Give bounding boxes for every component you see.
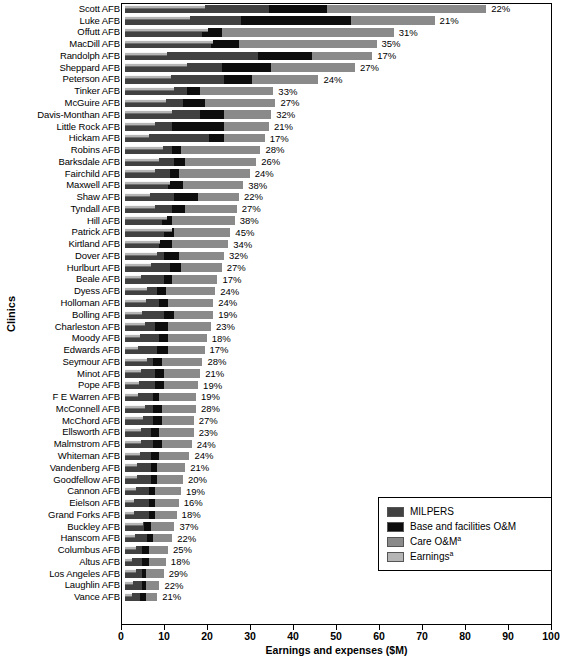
row-label-tyndall-afb: Tyndall AFB <box>20 204 124 214</box>
row-label-scott-afb: Scott AFB <box>20 4 124 14</box>
row-plot: 26% <box>124 156 556 168</box>
row-plot: 19% <box>124 485 556 497</box>
row-plot: 18% <box>124 332 556 344</box>
segment-bfom <box>269 5 327 13</box>
earnings-bar <box>125 346 138 350</box>
x-tick-label: 10 <box>158 630 170 642</box>
row-label-luke-afb: Luke AFB <box>20 16 124 26</box>
row-plot: 22% <box>124 191 556 203</box>
segment-care <box>172 240 228 248</box>
row-bars: 17% <box>125 274 555 286</box>
segment-bfom <box>211 40 239 48</box>
row-plot: 17% <box>124 132 556 144</box>
earnings-bar <box>125 63 187 67</box>
row-percent-label: 24% <box>197 439 216 450</box>
chart-row: McChord AFB27% <box>20 415 558 427</box>
legend-item: MILPERS <box>387 504 545 519</box>
row-bars: 27% <box>125 262 555 274</box>
earnings-bar <box>125 240 160 244</box>
row-label-barksdale-afb: Barksdale AFB <box>20 157 124 167</box>
row-plot: 22% <box>124 3 556 15</box>
row-plot: 21% <box>124 462 556 474</box>
segment-care <box>162 440 192 448</box>
earnings-bar <box>125 193 150 197</box>
chart-row: Seymour AFB28% <box>20 356 558 368</box>
row-label-moody-afb: Moody AFB <box>20 333 124 343</box>
row-percent-label: 38% <box>248 180 267 191</box>
row-label-macdill-afb: MacDill AFB <box>20 39 124 49</box>
row-label-laughlin-afb: Laughlin AFB <box>20 580 124 590</box>
segment-care <box>185 158 256 166</box>
segment-bfom <box>187 87 200 95</box>
y-axis-title: Clinics <box>2 0 20 628</box>
earnings-bar <box>125 440 141 444</box>
row-plot: 27% <box>124 203 556 215</box>
legend-label: Earningsa <box>410 550 453 562</box>
row-plot: 31% <box>124 27 556 39</box>
row-percent-label: 21% <box>190 462 209 473</box>
earnings-bar <box>125 216 167 220</box>
row-plot: 21% <box>124 15 556 27</box>
segment-care <box>162 416 194 424</box>
row-label-grand-forks-afb: Grand Forks AFB <box>20 510 124 520</box>
legend-label-text: Base and facilities O&M <box>410 521 516 532</box>
earnings-bar <box>125 405 145 409</box>
row-plot: 28% <box>124 144 556 156</box>
row-label-pope-afb: Pope AFB <box>20 380 124 390</box>
x-tick-label: 90 <box>502 630 514 642</box>
row-percent-label: 23% <box>199 427 218 438</box>
earnings-bar <box>125 369 141 373</box>
row-percent-label: 17% <box>222 274 241 285</box>
segment-care <box>159 452 189 460</box>
row-label-buckley-afb: Buckley AFB <box>20 522 124 532</box>
row-label-goodfellow-afb: Goodfellow AFB <box>20 475 124 485</box>
row-bars: 21% <box>125 368 555 380</box>
row-bars: 18% <box>125 332 555 344</box>
row-label-tinker-afb: Tinker AFB <box>20 86 124 96</box>
row-label-cannon-afb: Cannon AFB <box>20 486 124 496</box>
segment-bfom <box>164 311 175 319</box>
earnings-bar <box>125 169 155 173</box>
segment-care <box>181 263 222 271</box>
row-bars: 21% <box>125 462 555 474</box>
row-percent-label: 19% <box>203 380 222 391</box>
segment-care <box>155 487 181 495</box>
segment-care <box>239 40 377 48</box>
row-percent-label: 21% <box>274 121 293 132</box>
earnings-bar <box>125 134 149 138</box>
legend-label: Base and facilities O&M <box>410 521 516 532</box>
row-label-robins-afb: Robins AFB <box>20 145 124 155</box>
row-plot: 24% <box>124 297 556 309</box>
chart-row: Randolph AFB17% <box>20 50 558 62</box>
chart-row: Pope AFB19% <box>20 380 558 392</box>
x-tick-label: 60 <box>373 630 385 642</box>
row-bars: 24% <box>125 168 555 180</box>
row-plot: 27% <box>124 62 556 74</box>
row-label-hill-afb: Hill AFB <box>20 216 124 226</box>
row-label-offutt-afb: Offutt AFB <box>20 27 124 37</box>
row-percent-label: 22% <box>164 580 183 591</box>
chart-row: Tyndall AFB27% <box>20 203 558 215</box>
row-percent-label: 24% <box>324 74 343 85</box>
chart-row: Patrick AFB45% <box>20 227 558 239</box>
x-tick-label: 40 <box>287 630 299 642</box>
row-label-ellsworth-afb: Ellsworth AFB <box>20 427 124 437</box>
segment-care <box>153 534 172 542</box>
row-percent-label: 20% <box>188 474 207 485</box>
segment-bfom <box>151 452 160 460</box>
row-bars: 17% <box>125 50 555 62</box>
x-tick-label: 100 <box>542 630 560 642</box>
segment-bfom <box>174 193 198 201</box>
row-percent-label: 27% <box>242 203 261 214</box>
row-bars: 21% <box>125 15 555 27</box>
row-label-edwards-afb: Edwards AFB <box>20 345 124 355</box>
legend-label-text: Care O&M <box>410 537 457 548</box>
row-percent-label: 17% <box>377 50 396 61</box>
chart-row: Hickam AFB17% <box>20 132 558 144</box>
stacked-bar-chart: Clinics Scott AFB22%Luke AFB21%Offutt AF… <box>0 0 562 660</box>
legend-swatch-icon <box>387 537 404 547</box>
row-plot: 38% <box>124 215 556 227</box>
chart-row: Peterson AFB24% <box>20 74 558 86</box>
row-label-holloman-afb: Holloman AFB <box>20 298 124 308</box>
segment-care <box>198 193 239 201</box>
